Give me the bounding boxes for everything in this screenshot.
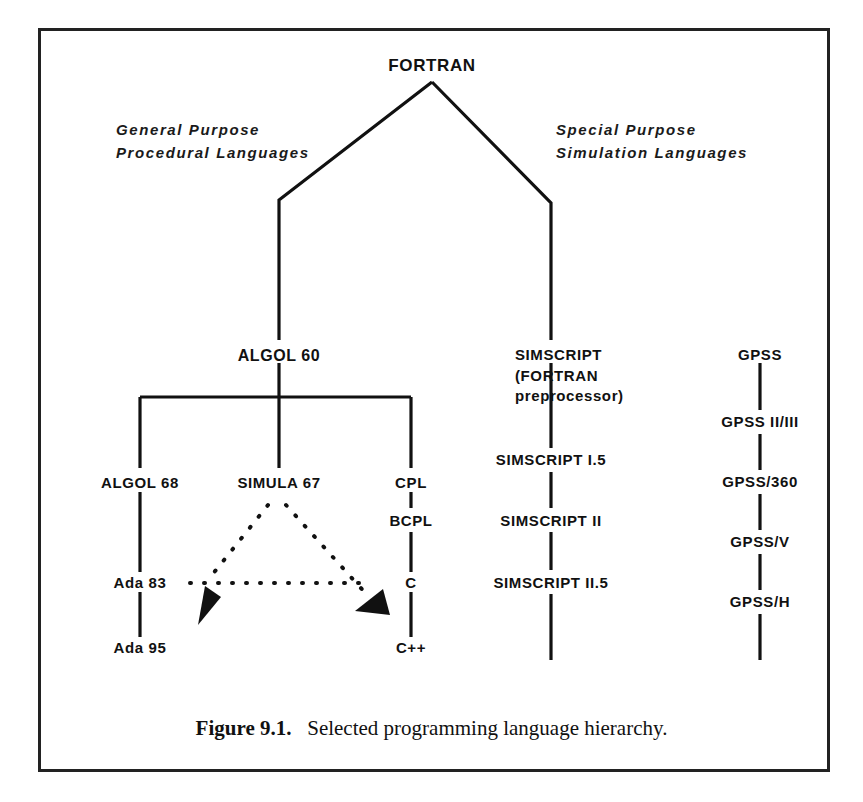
- node-cpp: C++: [396, 638, 426, 659]
- node-gpss-v: GPSS/V: [730, 532, 789, 553]
- node-gpss-h: GPSS/H: [730, 592, 790, 613]
- branch-label-left: General Purpose Procedural Languages: [116, 118, 310, 165]
- node-simula-67: SIMULA 67: [237, 473, 320, 494]
- node-gpss-360: GPSS/360: [722, 472, 798, 493]
- node-simscript-ii: SIMSCRIPT II: [500, 511, 601, 532]
- node-bcpl: BCPL: [389, 511, 432, 532]
- node-algol-68: ALGOL 68: [101, 473, 179, 494]
- figure-container: General Purpose Procedural Languages Spe…: [0, 0, 863, 802]
- node-ada-83: Ada 83: [114, 573, 167, 594]
- node-algol-60: ALGOL 60: [238, 345, 321, 367]
- figure-caption: Figure 9.1. Selected programming languag…: [196, 716, 668, 741]
- node-simscript: SIMSCRIPT (FORTRAN preprocessor): [515, 345, 624, 407]
- node-cpl: CPL: [395, 473, 427, 494]
- node-ada-95: Ada 95: [114, 638, 167, 659]
- node-simscript-ii5: SIMSCRIPT II.5: [493, 573, 608, 594]
- figure-caption-text: Selected programming language hierarchy.: [297, 716, 668, 740]
- node-c: C: [405, 573, 416, 594]
- node-gpss: GPSS: [738, 345, 782, 366]
- figure-caption-number: Figure 9.1.: [196, 716, 292, 740]
- branch-label-right: Special Purpose Simulation Languages: [556, 118, 748, 165]
- node-fortran: FORTRAN: [388, 54, 475, 77]
- node-gpss-ii-iii: GPSS II/III: [721, 412, 798, 433]
- node-simscript-i5: SIMSCRIPT I.5: [496, 450, 606, 471]
